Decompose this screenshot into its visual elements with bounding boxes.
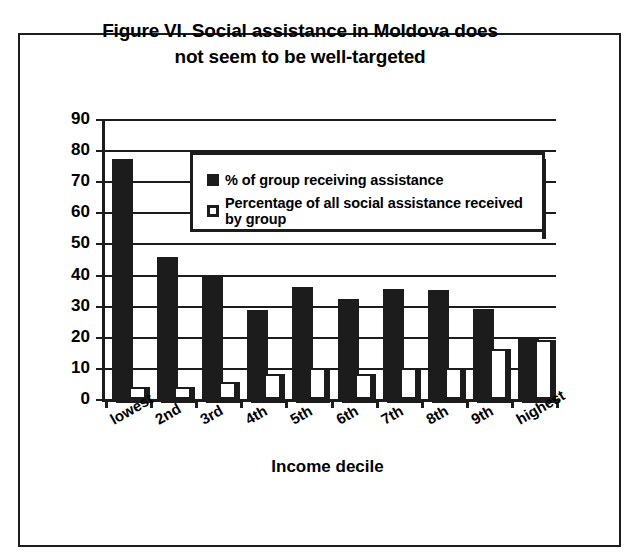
- legend-swatch-light-icon: [207, 205, 219, 217]
- chart-title: Figure VI. Social assistance in Moldova …: [50, 18, 550, 70]
- legend-label-series-2: Percentage of all social assistance rece…: [225, 195, 542, 227]
- y-axis-label-50: 50: [50, 234, 90, 251]
- chart-title-line-2: not seem to be well-targeted: [50, 44, 550, 70]
- bar-4th-series-2: [264, 374, 281, 399]
- bar-2nd-series-1: [157, 257, 174, 399]
- bar-group-lowest: [105, 119, 150, 399]
- chart-title-line-1: Figure VI. Social assistance in Moldova …: [50, 18, 550, 44]
- y-axis-tick-50: [96, 243, 105, 245]
- x-axis-tick-3: [240, 399, 243, 408]
- y-axis-tick-90: [96, 119, 105, 121]
- y-axis-tick-40: [96, 275, 105, 277]
- x-axis-tick-6: [376, 399, 379, 408]
- x-axis-tick-8: [466, 399, 469, 408]
- bar-6th-series-2: [355, 374, 372, 399]
- y-axis-tick-70: [96, 181, 105, 183]
- x-axis-tick-0: [105, 399, 108, 408]
- bar-6th-series-1: [338, 299, 355, 399]
- bar-group-2nd: [150, 119, 195, 399]
- x-axis-tick-7: [421, 399, 424, 408]
- y-axis-tick-0: [96, 399, 105, 401]
- bar-9th-series-1: [473, 309, 490, 399]
- y-axis-label-20: 20: [50, 328, 90, 345]
- y-axis-tick-30: [96, 306, 105, 308]
- x-axis-tick-4: [285, 399, 288, 408]
- y-axis-label-10: 10: [50, 359, 90, 376]
- bar-7th-series-1: [383, 289, 400, 399]
- x-axis-tick-2: [195, 399, 198, 408]
- chart-legend: % of group receiving assistance Percenta…: [190, 152, 545, 232]
- y-axis-tick-80: [96, 150, 105, 152]
- bar-4th-series-1: [247, 310, 264, 399]
- y-axis-label-30: 30: [50, 297, 90, 314]
- y-axis-label-90: 90: [50, 110, 90, 127]
- bar-9th-series-2: [490, 349, 507, 399]
- bar-3rd-series-1: [202, 275, 219, 399]
- bar-8th-series-1: [428, 290, 445, 399]
- bar-highest-series-1: [518, 337, 535, 399]
- y-axis-label-40: 40: [50, 266, 90, 283]
- bar-3rd-series-2: [219, 382, 236, 399]
- x-axis-tick-9: [511, 399, 514, 408]
- y-axis-tick-10: [96, 368, 105, 370]
- x-axis-tick-5: [331, 399, 334, 408]
- bar-7th-series-2: [400, 368, 417, 399]
- bar-2nd-series-2: [174, 387, 191, 399]
- legend-item-series-2: Percentage of all social assistance rece…: [207, 195, 542, 226]
- y-axis-label-0: 0: [50, 390, 90, 407]
- y-axis-label-60: 60: [50, 203, 90, 220]
- y-axis-tick-20: [96, 337, 105, 339]
- bar-8th-series-2: [445, 368, 462, 399]
- x-axis-title: Income decile: [102, 457, 553, 477]
- legend-item-series-1: % of group receiving assistance: [207, 164, 542, 195]
- y-axis-label-80: 80: [50, 141, 90, 158]
- legend-label-series-1: % of group receiving assistance: [225, 172, 444, 188]
- bar-highest-series-2: [535, 340, 552, 399]
- bar-5th-series-1: [292, 287, 309, 399]
- bar-5th-series-2: [309, 368, 326, 399]
- y-axis-tick-60: [96, 212, 105, 214]
- y-axis-label-70: 70: [50, 172, 90, 189]
- bar-lowest-series-1: [112, 159, 129, 399]
- legend-swatch-dark-icon: [207, 174, 219, 186]
